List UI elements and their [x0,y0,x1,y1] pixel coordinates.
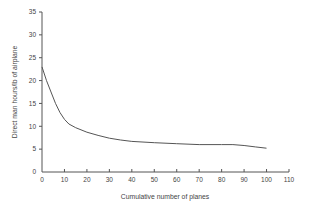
x-tick-label: 40 [128,176,136,183]
y-tick-label: 15 [29,100,37,107]
chart: 05101520253035 0102030405060708090100110… [0,0,309,211]
x-axis: 0102030405060708090100110 [40,169,294,183]
x-tick-label: 70 [196,176,204,183]
x-tick-label: 20 [83,176,91,183]
x-tick-label: 30 [106,176,114,183]
x-tick-label: 10 [61,176,69,183]
y-tick-label: 10 [29,123,37,130]
y-tick-label: 0 [32,168,36,175]
x-tick-label: 0 [40,176,44,183]
x-tick-label: 60 [173,176,181,183]
y-tick-label: 35 [29,8,37,15]
y-tick-label: 20 [29,77,37,84]
y-tick-label: 5 [32,145,36,152]
x-tick-label: 80 [218,176,226,183]
x-tick-label: 100 [261,176,272,183]
x-axis-title: Cumulative number of planes [121,193,210,201]
y-axis-title: Direct man hours/lb of airplane [11,46,19,139]
x-tick-label: 110 [284,176,295,183]
x-tick-label: 90 [240,176,248,183]
y-axis: 05101520253035 [29,8,42,175]
y-tick-label: 30 [29,31,37,38]
data-curve [42,67,267,148]
y-tick-label: 25 [29,54,37,61]
x-tick-label: 50 [151,176,159,183]
